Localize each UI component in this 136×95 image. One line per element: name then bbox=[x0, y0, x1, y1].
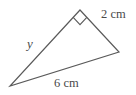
right-angle-marker-icon bbox=[73, 17, 87, 24]
side-label-6cm: 6 cm bbox=[54, 77, 79, 90]
side-label-y: y bbox=[27, 37, 33, 50]
geometry-figure: 2 cm 6 cm y bbox=[0, 0, 136, 95]
side-label-2cm: 2 cm bbox=[101, 8, 126, 21]
